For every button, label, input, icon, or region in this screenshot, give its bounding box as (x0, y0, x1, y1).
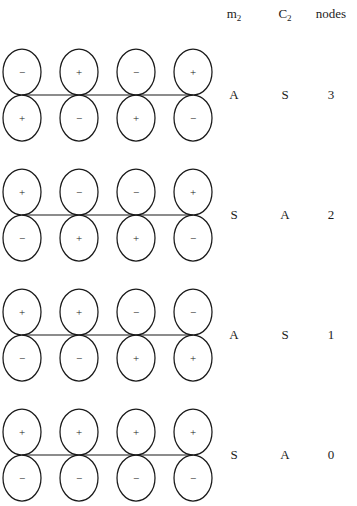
minus-sign-icon: − (19, 352, 25, 364)
row-label-nodes: 2 (305, 207, 357, 223)
minus-sign-icon: − (76, 472, 82, 484)
column-header-nodes: nodes (305, 6, 357, 22)
row-label-group: A S 1 (214, 327, 357, 345)
minus-sign-icon: − (190, 472, 196, 484)
row-label-nodes: 1 (305, 327, 357, 343)
plus-sign-icon: + (133, 112, 139, 124)
row-label-m2: S (214, 207, 254, 223)
orbital-chain: +−+−−+−+ (0, 275, 215, 395)
minus-sign-icon: − (190, 112, 196, 124)
orbital-chain-svg: +−+−+−+− (0, 395, 215, 506)
row-label-c2: S (265, 87, 305, 103)
plus-sign-icon: + (190, 352, 196, 364)
plus-sign-icon: + (190, 426, 196, 438)
plus-sign-icon: + (19, 426, 25, 438)
minus-sign-icon: − (133, 306, 139, 318)
mo-row: +−−+−++− S A 2 (0, 155, 357, 275)
minus-sign-icon: − (133, 186, 139, 198)
minus-sign-icon: − (76, 352, 82, 364)
minus-sign-icon: − (133, 472, 139, 484)
orbital-chain: −++−−++− (0, 35, 215, 155)
plus-sign-icon: + (19, 186, 25, 198)
minus-sign-icon: − (190, 232, 196, 244)
row-label-m2: S (214, 447, 254, 463)
plus-sign-icon: + (190, 66, 196, 78)
orbital-chain: +−−+−++− (0, 155, 215, 275)
plus-sign-icon: + (19, 306, 25, 318)
minus-sign-icon: − (19, 66, 25, 78)
row-label-group: A S 3 (214, 87, 357, 105)
mo-diagram: m2 C2 nodes −++−−++− A S 3 +−−+−++− S A … (0, 0, 357, 506)
orbital-chain-svg: +−−+−++− (0, 155, 215, 275)
column-header-c2: C2 (265, 6, 305, 23)
minus-sign-icon: − (19, 232, 25, 244)
plus-sign-icon: + (133, 426, 139, 438)
column-header-m2: m2 (214, 6, 254, 23)
row-label-c2: A (265, 447, 305, 463)
row-label-m2: A (214, 327, 254, 343)
minus-sign-icon: − (76, 112, 82, 124)
row-label-c2: S (265, 327, 305, 343)
plus-sign-icon: + (133, 232, 139, 244)
plus-sign-icon: + (133, 352, 139, 364)
mo-row: −++−−++− A S 3 (0, 35, 357, 155)
plus-sign-icon: + (76, 232, 82, 244)
minus-sign-icon: − (190, 306, 196, 318)
row-label-c2: A (265, 207, 305, 223)
column-header-row: m2 C2 nodes (0, 6, 357, 28)
minus-sign-icon: − (19, 472, 25, 484)
orbital-chain-svg: −++−−++− (0, 35, 215, 155)
mo-row: +−+−−+−+ A S 1 (0, 275, 357, 395)
plus-sign-icon: + (19, 112, 25, 124)
plus-sign-icon: + (190, 186, 196, 198)
plus-sign-icon: + (76, 66, 82, 78)
row-label-group: S A 2 (214, 207, 357, 225)
row-label-m2: A (214, 87, 254, 103)
orbital-chain: +−+−+−+− (0, 395, 215, 506)
row-label-group: S A 0 (214, 447, 357, 465)
row-label-nodes: 0 (305, 447, 357, 463)
minus-sign-icon: − (133, 66, 139, 78)
orbital-chain-svg: +−+−−+−+ (0, 275, 215, 395)
plus-sign-icon: + (76, 426, 82, 438)
row-label-nodes: 3 (305, 87, 357, 103)
mo-row: +−+−+−+− S A 0 (0, 395, 357, 506)
minus-sign-icon: − (76, 186, 82, 198)
plus-sign-icon: + (76, 306, 82, 318)
